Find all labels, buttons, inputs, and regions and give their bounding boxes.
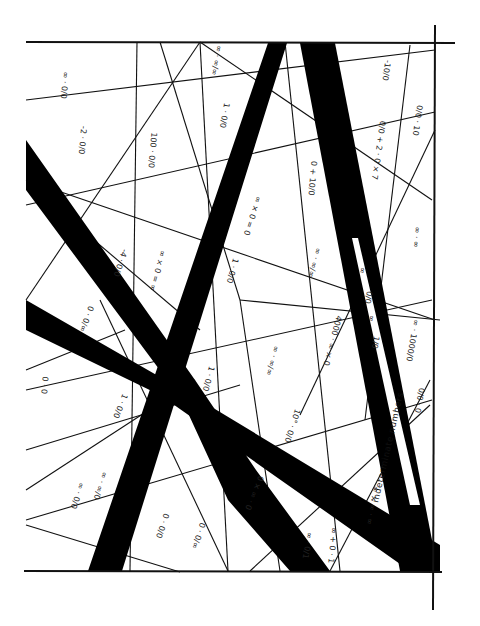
math-expression: 1 · 0/0: [111, 392, 129, 419]
math-expression: 0 · 0/0: [154, 512, 170, 539]
math-expression: 0 · 0/∞: [190, 521, 207, 550]
bottom-border: [24, 571, 442, 572]
math-expression: ∞ · 1000/0: [404, 319, 420, 362]
geometric-artwork: indeterminate numbers ∞ · 0/0-2 · 0/0100…: [0, 0, 480, 626]
math-expression: ∞ · ∞/∞: [264, 345, 281, 377]
math-expression: 1 · 0/0: [201, 365, 216, 392]
math-expression: 10° · 0/0: [283, 408, 302, 444]
math-expression: 0 · 0: [39, 376, 50, 395]
math-expression: 1 · 0/0: [225, 257, 240, 284]
top-border: [26, 42, 455, 43]
math-expression: 0/0 · 10: [411, 105, 424, 137]
math-expression: -10/0: [381, 59, 393, 81]
math-expression: 100 · 0/0: [146, 132, 158, 168]
math-expression: ∞ × 0 = 0: [242, 195, 263, 236]
math-expression: 0 · 0/∞: [77, 305, 95, 334]
math-expression: ∞ · 0/0: [69, 481, 86, 510]
math-expression: ∞ · ∞/∞: [306, 247, 323, 279]
math-expression: ∞ · 0/0: [59, 71, 70, 99]
math-expression: 0 + 10/0: [306, 160, 318, 195]
math-expression: ∞ + 0 · 1: [326, 527, 338, 564]
math-expression: 0/0 + 2 · 0 × 7: [370, 120, 387, 180]
math-expression: 1 · 0/0: [218, 102, 231, 129]
math-expression: -2 · 0/0: [77, 126, 88, 155]
math-expression: ∞ · ∞: [411, 226, 422, 248]
math-expression: -4 · 0/0: [112, 248, 129, 278]
math-expression: ∞ × 0 = ∞: [148, 249, 168, 292]
banner: indeterminate numbers: [352, 238, 420, 505]
